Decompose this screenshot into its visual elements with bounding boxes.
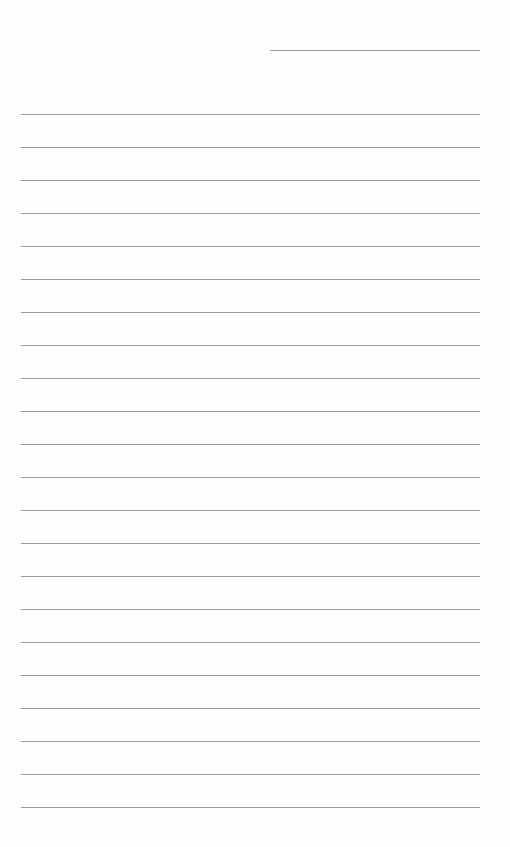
lined-paper-page (0, 0, 510, 847)
ruled-line (21, 444, 480, 445)
ruled-line (21, 543, 480, 544)
ruled-line (21, 345, 480, 346)
ruled-line (21, 114, 480, 115)
ruled-line (21, 213, 480, 214)
ruled-line (21, 741, 480, 742)
ruled-line (21, 510, 480, 511)
ruled-line (21, 378, 480, 379)
ruled-line (21, 147, 480, 148)
ruled-line (21, 609, 480, 610)
ruled-line (21, 708, 480, 709)
ruled-line (21, 675, 480, 676)
ruled-line (21, 807, 480, 808)
ruled-line (21, 246, 480, 247)
ruled-line (21, 180, 480, 181)
ruled-line (21, 477, 480, 478)
ruled-line (21, 411, 480, 412)
header-line (270, 50, 480, 51)
ruled-line (21, 576, 480, 577)
ruled-line (21, 774, 480, 775)
ruled-line (21, 312, 480, 313)
ruled-line (21, 642, 480, 643)
ruled-line (21, 279, 480, 280)
